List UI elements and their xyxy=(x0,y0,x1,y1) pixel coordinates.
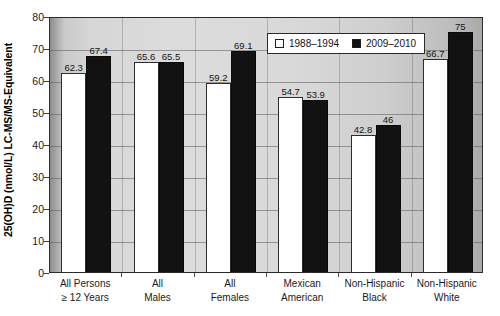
bar-dark-2[interactable] xyxy=(231,51,256,272)
x-axis-category-label: AllFemales xyxy=(194,277,266,304)
bar-light-0[interactable] xyxy=(61,73,86,272)
y-axis-title-text: 25(OH)D (nmol/L) LC-MS/MS-Equivalent xyxy=(2,43,14,237)
bar-dark-4[interactable] xyxy=(376,125,401,272)
x-axis-category-label: Non-HispanicWhite xyxy=(411,277,483,304)
bar-value-label: 69.1 xyxy=(225,41,262,51)
bar-dark-1[interactable] xyxy=(159,62,184,272)
legend-entry: 2009–2010 xyxy=(352,38,416,49)
x-tick-mark xyxy=(266,273,267,277)
bar-dark-5[interactable] xyxy=(448,32,473,272)
x-axis-category-label: All Persons≥ 12 Years xyxy=(49,277,121,304)
y-axis-title: 25(OH)D (nmol/L) LC-MS/MS-Equivalent xyxy=(0,0,16,280)
x-label-line2: Females xyxy=(194,291,266,305)
bar-value-label: 53.9 xyxy=(297,90,334,100)
x-label-line1: Non-Hispanic xyxy=(417,278,477,289)
y-tick-label: 20 xyxy=(20,204,44,215)
bar-dark-0[interactable] xyxy=(86,56,111,272)
y-tick-mark xyxy=(44,273,49,274)
x-axis-category-label: Non-HispanicBlack xyxy=(338,277,410,304)
group-separator xyxy=(122,18,123,272)
x-tick-mark xyxy=(411,273,412,277)
x-label-line1: All xyxy=(224,278,235,289)
x-tick-mark xyxy=(194,273,195,277)
y-tick-label: 30 xyxy=(20,172,44,183)
chart-legend: 1988–19942009–2010 xyxy=(267,33,425,54)
legend-label: 1988–1994 xyxy=(289,38,339,49)
y-tick-label: 10 xyxy=(20,236,44,247)
x-label-line2: Black xyxy=(338,291,410,305)
plot-area: 62.367.465.665.559.269.154.753.942.84666… xyxy=(49,17,483,273)
x-axis-category-label: AllMales xyxy=(121,277,193,304)
gridline xyxy=(50,114,482,115)
y-tick-label: 60 xyxy=(20,76,44,87)
x-label-line2: ≥ 12 Years xyxy=(49,291,121,305)
group-separator xyxy=(412,18,413,272)
bar-light-4[interactable] xyxy=(351,135,376,272)
y-tick-label: 80 xyxy=(20,12,44,23)
gridline xyxy=(50,210,482,211)
bar-light-5[interactable] xyxy=(423,59,448,272)
x-label-line2: White xyxy=(411,291,483,305)
bar-dark-3[interactable] xyxy=(303,100,328,272)
legend-entry: 1988–1994 xyxy=(275,38,339,49)
y-axis-ticks: 80706050403020100 xyxy=(18,0,44,316)
gridline xyxy=(50,82,482,83)
bar-value-label: 65.5 xyxy=(153,52,190,62)
x-label-line1: All Persons xyxy=(60,278,111,289)
x-tick-mark xyxy=(121,273,122,277)
legend-swatch-dark xyxy=(352,39,361,48)
gridline xyxy=(50,178,482,179)
bar-value-label: 46 xyxy=(370,115,407,125)
x-tick-mark xyxy=(338,273,339,277)
bar-light-2[interactable] xyxy=(206,83,231,272)
y-tick-label: 70 xyxy=(20,44,44,55)
y-tick-label: 40 xyxy=(20,140,44,151)
group-separator xyxy=(195,18,196,272)
y-tick-label: 0 xyxy=(20,268,44,279)
x-label-line2: Males xyxy=(121,291,193,305)
x-label-line1: Mexican xyxy=(284,278,321,289)
gridline xyxy=(50,242,482,243)
x-axis-labels: All Persons≥ 12 YearsAllMalesAllFemalesM… xyxy=(49,277,483,316)
bar-value-label: 67.4 xyxy=(80,46,117,56)
x-label-line1: Non-Hispanic xyxy=(344,278,404,289)
x-label-line2: American xyxy=(266,291,338,305)
bar-light-3[interactable] xyxy=(278,97,303,272)
bar-value-label: 75 xyxy=(442,22,479,32)
legend-label: 2009–2010 xyxy=(366,38,416,49)
bar-light-1[interactable] xyxy=(134,62,159,272)
group-separator xyxy=(339,18,340,272)
bar-chart-figure: 25(OH)D (nmol/L) LC-MS/MS-Equivalent 807… xyxy=(0,0,500,316)
x-label-line1: All xyxy=(152,278,163,289)
x-axis-category-label: MexicanAmerican xyxy=(266,277,338,304)
y-tick-label: 50 xyxy=(20,108,44,119)
legend-swatch-light xyxy=(275,39,284,48)
gridline xyxy=(50,146,482,147)
group-separator xyxy=(267,18,268,272)
